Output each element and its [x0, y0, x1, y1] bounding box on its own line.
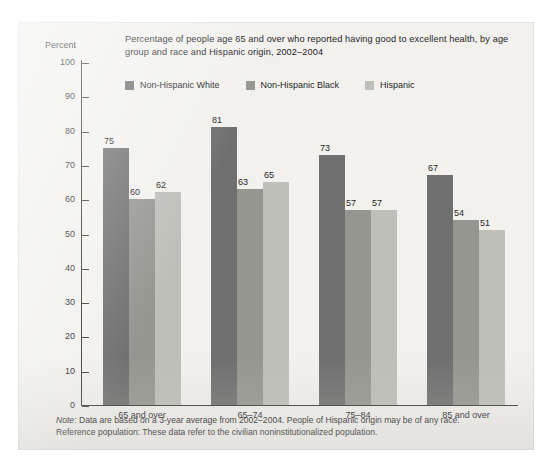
bar-column[interactable]: 62: [155, 62, 181, 405]
bar-value-label: 63: [238, 177, 248, 187]
y-axis-tick-label: 90: [65, 91, 75, 101]
bar-value-label: 51: [480, 218, 490, 228]
bar-value-label: 57: [346, 198, 356, 208]
scanned-page: Percentage of people age 65 and over who…: [18, 22, 534, 450]
bar-column[interactable]: 63: [237, 62, 263, 405]
bar-column[interactable]: 73: [319, 62, 345, 405]
bar[interactable]: [319, 155, 345, 405]
bar[interactable]: [453, 220, 479, 405]
bar-column[interactable]: 81: [211, 62, 237, 405]
footnote-note-label: Note:: [56, 415, 77, 425]
bar-group: 735757: [319, 62, 397, 405]
bar-value-label: 81: [212, 115, 222, 125]
bar[interactable]: [211, 127, 237, 405]
y-axis-tick: 50: [82, 235, 89, 236]
y-axis-tick: 60: [82, 200, 89, 201]
bar[interactable]: [237, 189, 263, 405]
bar-column[interactable]: 54: [453, 62, 479, 405]
footnote-reference-label: Reference population:: [56, 427, 140, 437]
bar[interactable]: [479, 230, 505, 405]
bar-value-label: 67: [428, 163, 438, 173]
bar[interactable]: [103, 148, 129, 405]
bar-group: 675451: [427, 62, 505, 405]
y-axis-tick: 40: [82, 269, 89, 270]
bar-value-label: 65: [264, 170, 274, 180]
y-axis-tick-label: 100: [60, 57, 75, 67]
bar[interactable]: [427, 175, 453, 405]
bar-column[interactable]: 67: [427, 62, 453, 405]
bar-column[interactable]: 57: [345, 62, 371, 405]
plot-area: 1009080706050403020100 75606265 and over…: [81, 63, 518, 406]
bar-value-label: 73: [320, 143, 330, 153]
chart-footnote: Note: Data are based on a 3-year average…: [56, 414, 522, 439]
footnote-line-note: Note: Data are based on a 3-year average…: [56, 414, 522, 426]
bar-value-label: 54: [454, 208, 464, 218]
bar-column[interactable]: 60: [129, 62, 155, 405]
bar-column[interactable]: 65: [263, 62, 289, 405]
y-axis-tick-label: 40: [65, 263, 75, 273]
x-axis-line: [81, 405, 518, 406]
y-axis-tick-label: 30: [65, 297, 75, 307]
y-axis-tick-label: 50: [65, 229, 75, 239]
y-axis-tick: 80: [82, 132, 89, 133]
bar-column[interactable]: 57: [371, 62, 397, 405]
bar-column[interactable]: 75: [103, 62, 129, 405]
y-axis-tick-label: 60: [65, 194, 75, 204]
bar-column[interactable]: 51: [479, 62, 505, 405]
bar-group: 756062: [103, 62, 181, 405]
bar-value-label: 60: [130, 187, 140, 197]
footnote-reference-text: These data refer to the civilian noninst…: [140, 427, 377, 437]
y-axis-tick-label: 80: [65, 126, 75, 136]
y-axis-tick: 100: [82, 63, 89, 64]
bar-value-label: 57: [372, 198, 382, 208]
bar-value-label: 75: [104, 136, 114, 146]
y-axis-tick: 20: [82, 337, 89, 338]
footnote-line-reference: Reference population: These data refer t…: [56, 426, 522, 438]
y-axis-tick-label: 0: [70, 400, 75, 410]
y-axis-tick-label: 10: [65, 366, 75, 376]
bar-chart: Percentage of people age 65 and over who…: [18, 22, 534, 450]
bar[interactable]: [155, 192, 181, 405]
bar[interactable]: [371, 210, 397, 406]
chart-title: Percentage of people age 65 and over who…: [125, 33, 517, 58]
footnote-note-text: Data are based on a 3-year average from …: [77, 415, 460, 425]
bar[interactable]: [263, 182, 289, 405]
y-axis-tick: 0: [82, 406, 89, 407]
y-axis-tick: 30: [82, 303, 89, 304]
bar-value-label: 62: [156, 180, 166, 190]
y-axis-title: Percent: [45, 40, 76, 50]
y-axis-line: [81, 60, 82, 406]
y-axis-tick: 90: [82, 97, 89, 98]
y-axis-tick-label: 70: [65, 160, 75, 170]
y-axis-tick: 70: [82, 166, 89, 167]
y-axis-tick: 10: [82, 372, 89, 373]
y-axis-tick-label: 20: [65, 331, 75, 341]
bar[interactable]: [345, 210, 371, 406]
bar[interactable]: [129, 199, 155, 405]
bar-group: 816365: [211, 62, 289, 405]
